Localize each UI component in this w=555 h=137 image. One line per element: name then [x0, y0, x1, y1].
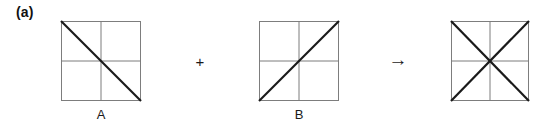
tile-a: [61, 21, 141, 101]
figure-panel: (a) A + B →: [0, 0, 555, 137]
tile-a-caption: A: [61, 106, 141, 124]
tile-b-graphic: [259, 21, 339, 101]
arrow-operator: →: [378, 52, 418, 68]
tile-b-caption: B: [259, 106, 339, 124]
tile-a-graphic: [61, 21, 141, 101]
panel-label: (a): [16, 3, 34, 21]
tile-b: [259, 21, 339, 101]
tile-result-graphic: [451, 21, 529, 101]
tile-result: [451, 21, 529, 101]
plus-operator: +: [188, 54, 212, 70]
